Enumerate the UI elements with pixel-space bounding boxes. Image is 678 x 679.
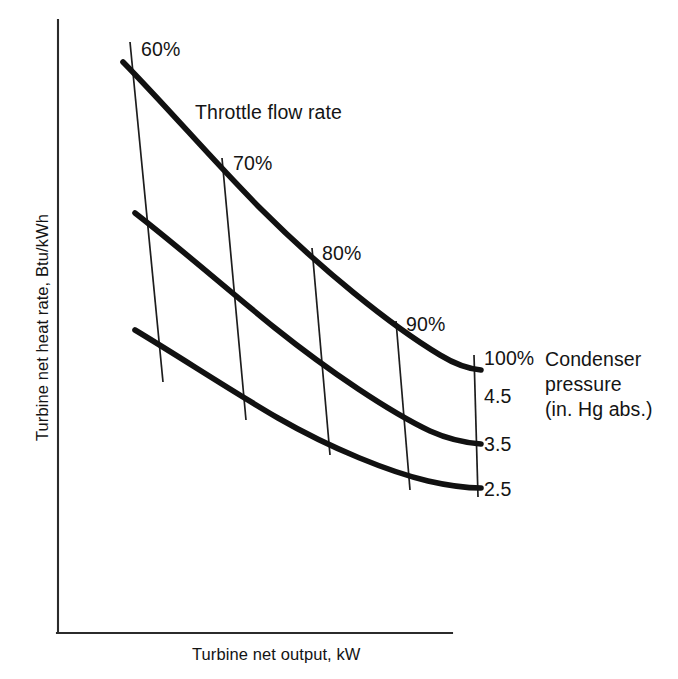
- flow-line-80: [312, 248, 330, 455]
- flow-label-60: 60%: [141, 38, 180, 61]
- flow-label-80: 80%: [322, 242, 361, 265]
- legend-condenser-line-1: Condenser: [545, 347, 641, 373]
- y-axis-label: Turbine net heat rate, Btu/kWh: [33, 208, 52, 448]
- flow-label-100: 100%: [484, 347, 534, 370]
- throttle-flow-rate-title: Throttle flow rate: [195, 101, 342, 124]
- flow-label-90: 90%: [406, 313, 445, 336]
- legend-condenser-line-3: (in. Hg abs.): [545, 397, 653, 423]
- pressure-label-3-5: 3.5: [484, 433, 511, 456]
- legend-condenser-line-2: pressure: [545, 372, 622, 398]
- flow-line-100: [474, 355, 478, 497]
- pressure-label-2-5: 2.5: [484, 478, 511, 501]
- x-axis-label: Turbine net output, kW: [192, 645, 361, 664]
- chart-figure: Throttle flow rate 60% 70% 80% 90% 100% …: [0, 0, 678, 679]
- pressure-label-4-5: 4.5: [484, 385, 511, 408]
- flow-label-70: 70%: [233, 152, 272, 175]
- flow-line-90: [396, 321, 410, 490]
